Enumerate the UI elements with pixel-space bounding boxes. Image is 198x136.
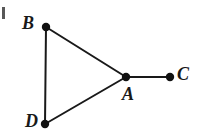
vertex-label-a: A xyxy=(122,85,134,103)
edge-group xyxy=(45,27,170,124)
vertex-label-b: B xyxy=(22,14,34,32)
vertex-label-d: D xyxy=(25,112,38,130)
vertex-dot-d xyxy=(41,120,49,128)
vertex-dot-b xyxy=(42,23,50,31)
edge-b-d xyxy=(45,27,46,124)
graph-diagram-figure: B D A C xyxy=(0,0,198,136)
vertex-dot-c xyxy=(166,73,174,81)
vertex-dot-a xyxy=(122,73,130,81)
vertex-group xyxy=(41,23,174,128)
vertex-label-c: C xyxy=(177,65,189,83)
edge-b-a xyxy=(46,27,126,77)
edge-d-a xyxy=(45,77,126,124)
